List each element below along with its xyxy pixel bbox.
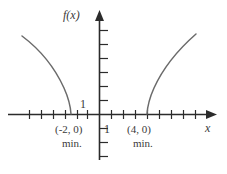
y-axis-label: f(x) <box>63 9 80 21</box>
curve-right-branch <box>147 34 196 114</box>
y-axis-unit-tick-label: 1 <box>80 98 86 110</box>
graph-canvas <box>0 0 227 174</box>
y-axis-arrowhead <box>95 10 104 21</box>
x-axis-label: x <box>205 122 210 134</box>
annotation-right-point: (4, 0) <box>127 124 151 135</box>
curve-left-branch <box>22 36 71 114</box>
annotation-left-point: (-2, 0) <box>55 124 83 135</box>
x-axis-unit-tick-label: 1 <box>104 123 110 135</box>
function-graph-figure: f(x) x 1 1 (-2, 0) min. (4, 0) min. <box>0 0 227 174</box>
annotation-right-min: min. <box>133 138 153 149</box>
y-axis-ticks-positive <box>99 31 108 101</box>
x-axis-arrowhead <box>206 110 217 119</box>
annotation-left-min: min. <box>62 138 82 149</box>
